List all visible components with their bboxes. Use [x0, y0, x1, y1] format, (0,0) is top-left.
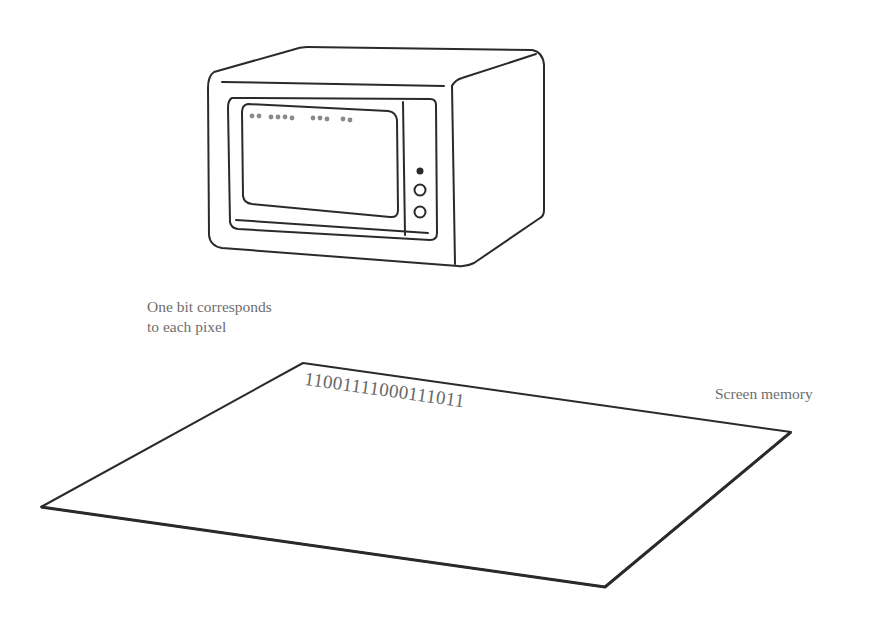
- monitor-indicator-light: [417, 168, 424, 175]
- screen-memory-label: Screen memory: [715, 384, 813, 403]
- monitor-top-line: [222, 82, 444, 86]
- diagram-drawing: [0, 0, 881, 617]
- monitor-control-divider: [403, 102, 405, 235]
- annotation-line-1: One bit corresponds: [147, 297, 272, 316]
- monitor-front-right-edge: [452, 54, 536, 86]
- monitor-illustration: [208, 47, 544, 266]
- screen-dots: [250, 114, 353, 123]
- monitor-screen: [242, 104, 398, 217]
- monitor-body-outline: [208, 47, 544, 266]
- annotation-line-2: to each pixel: [147, 317, 226, 336]
- diagram-canvas: One bit corresponds to each pixel 110011…: [0, 0, 881, 617]
- monitor-button-1: [415, 185, 426, 196]
- monitor-button-2: [415, 207, 426, 218]
